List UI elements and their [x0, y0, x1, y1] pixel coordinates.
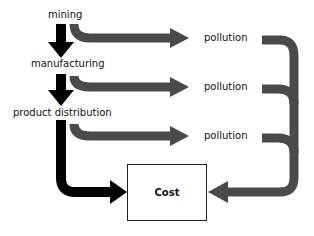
output-label-pollution-2: pollution: [204, 81, 248, 92]
cost-label: Cost: [155, 187, 180, 198]
pollution-arrow-3: [74, 124, 189, 146]
stage-label-manufacturing: manufacturing: [31, 58, 105, 69]
output-label-pollution-3: pollution: [204, 130, 248, 141]
pollution-arrow-1: [74, 24, 189, 48]
cost-box: Cost: [127, 164, 207, 221]
stage-label-product-distribution: product distribution: [13, 107, 112, 118]
pollution-collector-bracket: [208, 40, 294, 203]
pollution-arrow-2: [74, 76, 189, 97]
stage-label-mining: mining: [48, 9, 82, 20]
output-label-pollution-1: pollution: [204, 32, 248, 43]
